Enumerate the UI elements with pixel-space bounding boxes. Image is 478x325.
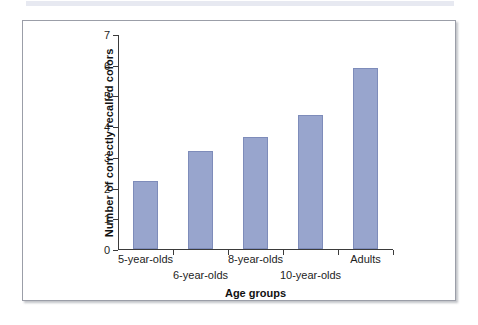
bar [353,68,378,249]
bar-chart: Number of correctly recalled colors 0123… [0,0,478,325]
y-tick [113,250,118,251]
y-tick [113,96,118,97]
y-tick-label: 4 [104,121,110,133]
x-axis-title: Age groups [118,287,393,299]
x-tick-label: 6-year-olds [173,269,228,281]
y-tick [113,158,118,159]
x-tick-label: 5-year-olds [118,253,173,265]
x-tick-label: Adults [350,253,381,265]
y-tick-label: 7 [104,29,110,41]
plot-axes: 01234567 [118,35,393,250]
y-axis-title-text: Number of correctly recalled colors [103,48,115,237]
bar [188,151,213,249]
y-tick-label: 5 [104,90,110,102]
bar [133,181,158,249]
y-tick-label: 0 [104,244,110,256]
y-tick-label: 6 [104,60,110,72]
y-tick-label: 2 [104,183,110,195]
bar [243,137,268,249]
y-tick [113,35,118,36]
bar [298,115,323,249]
y-tick [113,189,118,190]
x-tick [393,250,394,255]
x-tick-label-group: 5-year-olds6-year-olds8-year-olds10-year… [118,253,393,285]
x-axis-line [118,249,393,250]
y-tick-label: 3 [104,152,110,164]
x-tick-label: 8-year-olds [228,253,283,265]
x-tick-label: 10-year-olds [280,269,341,281]
y-tick [113,219,118,220]
y-tick [113,66,118,67]
y-tick-label: 1 [104,213,110,225]
y-tick [113,127,118,128]
y-axis-line [118,35,119,250]
